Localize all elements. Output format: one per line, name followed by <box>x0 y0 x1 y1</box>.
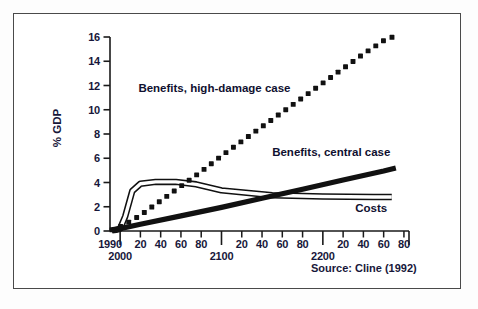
series-dot <box>209 161 214 166</box>
series-dot <box>321 80 326 85</box>
series-dot <box>298 97 303 102</box>
series-dot <box>187 178 192 183</box>
series-label-costs: Costs <box>355 202 387 214</box>
series-dot <box>381 38 386 43</box>
series-dot <box>149 205 154 210</box>
y-tick-label: 2 <box>72 201 100 213</box>
source-attribution: Source: Cline (1992) <box>311 262 417 274</box>
x-tick-label-upper: 40 <box>256 238 268 250</box>
series-dot <box>157 199 162 204</box>
series-dot <box>134 215 139 220</box>
series-dot <box>306 91 311 96</box>
series-dot <box>253 129 258 134</box>
y-tick-label: 10 <box>72 104 100 116</box>
series-dot <box>142 210 147 215</box>
x-tick-label-upper: 20 <box>236 238 248 250</box>
y-tick-label: 8 <box>72 128 100 140</box>
series-dot <box>291 102 296 107</box>
series-dot <box>110 227 115 232</box>
series-dot <box>261 123 266 128</box>
series-dot <box>164 194 169 199</box>
series-dot <box>126 220 131 225</box>
x-tick-label-century: 2100 <box>210 250 234 262</box>
series-dot <box>283 107 288 112</box>
figure-container: 0246810121416 19902040608020406080204060… <box>0 0 478 309</box>
x-tick-label-century: 2200 <box>311 250 335 262</box>
y-tick-label: 14 <box>72 55 100 67</box>
series-dot <box>358 54 363 59</box>
series-dot <box>216 156 221 161</box>
x-tick-label-upper: 60 <box>378 238 390 250</box>
x-tick-label-upper: 60 <box>175 238 187 250</box>
x-tick-label-upper: 40 <box>357 238 369 250</box>
series-dot <box>313 86 318 91</box>
series-dot <box>373 43 378 48</box>
x-tick-label-upper: 20 <box>134 238 146 250</box>
series-dot <box>179 183 184 188</box>
series-dot <box>268 118 273 123</box>
y-tick-label: 6 <box>72 152 100 164</box>
axes-group <box>104 37 410 245</box>
x-tick-label-upper: 40 <box>155 238 167 250</box>
x-axis-minor-ticks <box>140 231 404 238</box>
y-tick-label: 12 <box>72 80 100 92</box>
series-dot <box>172 189 177 194</box>
data-series-group <box>110 35 396 232</box>
y-tick-label: 0 <box>72 225 100 237</box>
y-tick-label: 16 <box>72 31 100 43</box>
series-dot <box>366 48 371 53</box>
series-dot <box>202 167 207 172</box>
series-dot <box>390 35 395 40</box>
x-tick-label-upper: 60 <box>276 238 288 250</box>
series-dot <box>246 134 251 139</box>
x-tick-label-upper: 1990 <box>98 238 122 250</box>
series-dot <box>351 59 356 64</box>
series-dot <box>194 172 199 177</box>
series-label-benefits-high-damage: Benefits, high-damage case <box>138 82 290 94</box>
series-dot <box>336 70 341 75</box>
series-dot <box>231 145 236 150</box>
series-dot <box>238 139 243 144</box>
series-label-benefits-central: Benefits, central case <box>272 146 390 158</box>
y-axis-title: % GDP <box>51 109 63 147</box>
x-tick-label-century: 2000 <box>108 250 132 262</box>
series-dot <box>276 113 281 118</box>
x-tick-label-upper: 80 <box>195 238 207 250</box>
y-axis-ticks <box>104 37 111 231</box>
series-dot <box>343 64 348 69</box>
x-tick-label-upper: 80 <box>398 238 410 250</box>
x-tick-label-upper: 20 <box>337 238 349 250</box>
series-dot <box>223 150 228 155</box>
x-tick-label-upper: 80 <box>297 238 309 250</box>
y-tick-label: 4 <box>72 177 100 189</box>
series-dot <box>328 75 333 80</box>
series-dot <box>118 224 123 229</box>
